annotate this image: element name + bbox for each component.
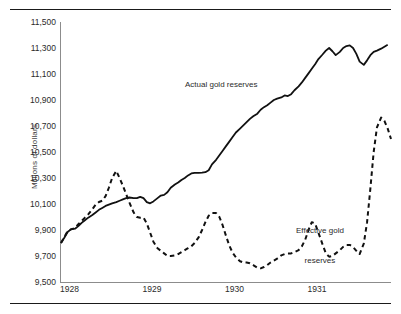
x-tick-label: 1928 xyxy=(60,284,79,294)
y-tick-label: 10,300 xyxy=(0,173,56,183)
series-label-effective-line1: Effective gold xyxy=(296,226,344,236)
y-tick-label: 9,500 xyxy=(0,277,56,287)
y-tick-label: 11,100 xyxy=(0,69,56,79)
y-tick-label: 10,900 xyxy=(0,95,56,105)
top-divider-rule xyxy=(10,9,391,10)
series-label-effective: Effective gold reserves xyxy=(296,206,344,286)
y-tick-label: 10,500 xyxy=(0,147,56,157)
x-tick-label: 1929 xyxy=(143,284,162,294)
series-label-actual: Actual gold reserves xyxy=(185,80,257,90)
y-tick-label: 11,500 xyxy=(0,17,56,27)
bottom-divider-rule xyxy=(10,303,391,304)
chart-figure: Millions of dollars 9,5009,7009,90010,10… xyxy=(0,0,401,314)
y-tick-label: 10,700 xyxy=(0,121,56,131)
series-label-effective-line2: reserves xyxy=(296,256,344,266)
y-tick-label: 9,900 xyxy=(0,225,56,235)
x-tick-label: 1930 xyxy=(225,284,244,294)
y-tick-label: 10,100 xyxy=(0,199,56,209)
y-tick-label: 9,700 xyxy=(0,251,56,261)
y-tick-label: 11,300 xyxy=(0,43,56,53)
